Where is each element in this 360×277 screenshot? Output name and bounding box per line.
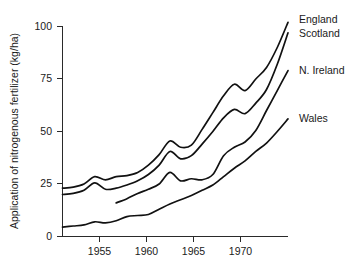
line-chart: Application of nitrogenous fertilizer (k… [0,0,360,277]
y-tick-label-50: 50 [40,125,52,137]
x-tick-label-1965: 1965 [182,245,206,257]
series-line-wales [63,119,289,227]
x-tick-label-1970: 1970 [229,245,253,257]
y-axis-title: Application of nitrogenous fertilizer (k… [8,33,20,229]
y-tick-label-25: 25 [40,177,52,189]
series-label-n-ireland: N. Ireland [299,64,345,76]
x-tick-label-1955: 1955 [88,245,112,257]
y-tick-label-100: 100 [34,20,52,32]
series-label-scotland: Scotland [299,27,340,39]
x-tick-label-1960: 1960 [135,245,159,257]
y-tick-label-0: 0 [46,230,52,242]
series-label-wales: Wales [299,112,328,124]
series-label-england: England [299,13,338,25]
chart-figure: Application of nitrogenous fertilizer (k… [0,0,360,277]
series-line-n-ireland [116,71,288,203]
y-tick-label-75: 75 [40,72,52,84]
series-line-scotland [63,33,289,195]
